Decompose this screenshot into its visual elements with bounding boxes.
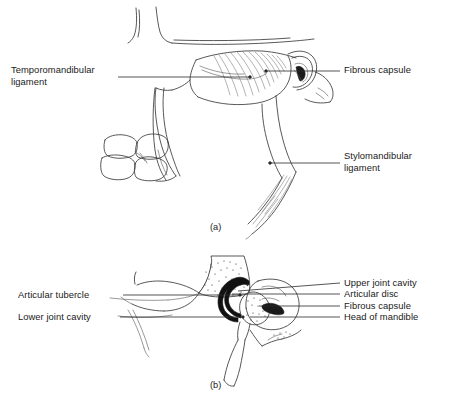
anatomical-line-art xyxy=(0,0,449,402)
label-fibrous-capsule-a: Fibrous capsule xyxy=(344,64,411,76)
figure-canvas: Temporomandibular ligament Fibrous capsu… xyxy=(0,0,449,402)
caption-panel-a: (a) xyxy=(210,222,221,232)
panel-b-drawing xyxy=(110,256,340,386)
label-upper-joint-cavity: Upper joint cavity xyxy=(344,277,417,289)
label-stylomandibular-ligament: Stylomandibular ligament xyxy=(344,150,412,173)
label-lower-joint-cavity: Lower joint cavity xyxy=(18,311,91,323)
panel-a-drawing xyxy=(101,7,340,239)
label-articular-tubercle: Articular tubercle xyxy=(18,289,89,301)
caption-panel-b: (b) xyxy=(210,380,221,390)
label-temporomandibular-ligament: Temporomandibular ligament xyxy=(11,64,95,87)
label-fibrous-capsule-b: Fibrous capsule xyxy=(344,300,411,312)
teeth-group xyxy=(101,134,169,181)
label-articular-disc: Articular disc xyxy=(344,288,398,300)
label-head-of-mandible: Head of mandible xyxy=(344,311,418,323)
panel-a-leaders xyxy=(118,70,340,165)
